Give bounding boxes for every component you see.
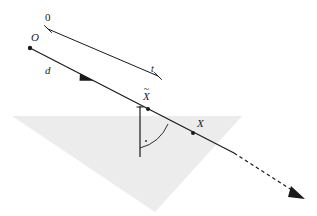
intersection-estimate-dot <box>146 107 150 111</box>
tilde-accent-icon: ~ <box>144 84 149 94</box>
scale-tick-end <box>154 72 162 79</box>
origin-point-dot <box>28 46 32 50</box>
diagram-canvas <box>0 0 317 216</box>
figure-container: 0 O d t ~ X X <box>0 0 317 216</box>
right-angle-dot-icon <box>145 140 147 142</box>
scale-bar-line <box>48 29 158 76</box>
label-intersection-exact: X <box>197 118 204 129</box>
ray-arrowhead-icon <box>288 186 305 199</box>
direction-arrowhead-icon <box>80 74 95 81</box>
label-intersection-estimate: ~ X <box>143 91 150 102</box>
scale-tick-start <box>44 25 52 32</box>
label-param-end: t <box>151 64 154 74</box>
intersection-exact-dot <box>191 131 195 135</box>
parameter-scale-bar <box>44 25 162 79</box>
label-param-start: 0 <box>45 12 51 23</box>
label-direction: d <box>45 65 51 76</box>
tilde-stack: ~ X <box>143 91 150 102</box>
plane-polygon <box>12 116 242 212</box>
ray-dashed-segment <box>234 153 295 192</box>
label-origin: O <box>31 32 39 43</box>
